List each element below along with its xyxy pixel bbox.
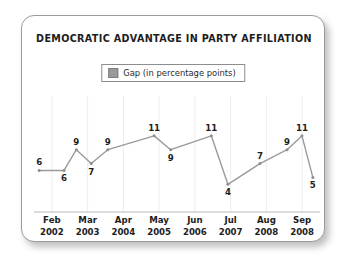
data-point-12 [311, 176, 314, 179]
data-point-11 [300, 134, 303, 137]
x-tick-month: Aug [257, 215, 276, 225]
chart-panel: DEMOCRATIC ADVANTAGE IN PARTY AFFILIATIO… [21, 15, 325, 242]
x-tick-month: Mar [78, 215, 97, 225]
x-tick-1: Mar2003 [70, 215, 106, 245]
data-label-6: 9 [168, 153, 174, 163]
legend-swatch-icon [108, 68, 118, 78]
x-axis-tick-labels: Feb2002Mar2003Apr2004May2005Jun2006Jul20… [34, 215, 320, 245]
data-point-5 [153, 134, 156, 137]
data-point-1 [63, 169, 66, 172]
plot-area: 6697911911479115 [34, 96, 320, 213]
chart-legend: Gap (in percentage points) [101, 64, 245, 82]
x-tick-month: Jul [224, 215, 236, 225]
data-label-2: 9 [73, 137, 79, 147]
x-tick-month: Feb [43, 215, 61, 225]
data-point-2 [75, 148, 78, 151]
data-point-3 [90, 162, 93, 165]
x-tick-year: 2008 [284, 227, 320, 239]
data-label-8: 4 [225, 187, 231, 197]
x-tick-0: Feb2002 [34, 215, 70, 245]
x-tick-month: Apr [115, 215, 132, 225]
data-label-10: 9 [284, 137, 290, 147]
x-tick-2: Apr2004 [106, 215, 142, 245]
data-point-10 [286, 148, 289, 151]
x-tick-year: 2006 [177, 227, 213, 239]
data-point-8 [226, 183, 229, 186]
x-tick-year: 2002 [34, 227, 70, 239]
data-label-9: 7 [257, 151, 263, 161]
legend-label: Gap (in percentage points) [123, 68, 236, 78]
data-label-1: 6 [61, 173, 67, 183]
data-label-11: 11 [296, 123, 308, 133]
x-tick-3: May2005 [141, 215, 177, 245]
x-tick-year: 2008 [249, 227, 285, 239]
x-tick-7: Sep2008 [284, 215, 320, 245]
x-tick-4: Jun2006 [177, 215, 213, 245]
screenshot-root: DEMOCRATIC ADVANTAGE IN PARTY AFFILIATIO… [0, 0, 345, 254]
x-tick-year: 2007 [213, 227, 249, 239]
data-line-gap [39, 136, 313, 184]
x-tick-year: 2003 [70, 227, 106, 239]
data-label-5: 11 [148, 123, 160, 133]
data-label-4: 9 [105, 137, 111, 147]
x-tick-year: 2005 [141, 227, 177, 239]
data-label-3: 7 [88, 167, 94, 177]
x-tick-month: Jun [187, 215, 202, 225]
data-point-0 [38, 169, 41, 172]
x-tick-month: Sep [293, 215, 311, 225]
page-title: DEMOCRATIC ADVANTAGE IN PARTY AFFILIATIO… [22, 33, 326, 44]
data-label-0: 6 [36, 157, 42, 167]
x-tick-5: Jul2007 [213, 215, 249, 245]
x-tick-6: Aug2008 [249, 215, 285, 245]
data-point-9 [258, 162, 261, 165]
x-tick-year: 2004 [106, 227, 142, 239]
data-point-7 [210, 134, 213, 137]
data-label-7: 11 [205, 123, 217, 133]
data-point-4 [106, 148, 109, 151]
data-label-12: 5 [310, 180, 316, 190]
line-chart-svg: 6697911911479115 [34, 96, 320, 213]
data-point-6 [169, 148, 172, 151]
x-tick-month: May [149, 215, 169, 225]
